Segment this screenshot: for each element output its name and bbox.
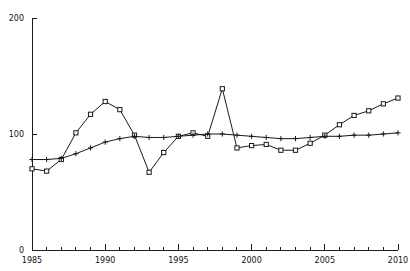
series-line [32, 89, 398, 173]
data-point-marker-square [88, 112, 92, 116]
data-point-marker-square [381, 102, 385, 106]
x-tick-label: 2005 [315, 256, 335, 265]
y-tick-label: 100 [9, 130, 24, 139]
data-point-marker-square [337, 123, 341, 127]
y-tick-label: 0 [19, 246, 24, 255]
x-tick-label: 1990 [95, 256, 115, 265]
data-point-marker-square [352, 113, 356, 117]
data-point-marker-square [103, 99, 107, 103]
data-point-marker-square [367, 109, 371, 113]
data-point-marker-square [30, 167, 34, 171]
x-tick-label: 2000 [241, 256, 261, 265]
data-point-marker-square [74, 131, 78, 135]
data-point-marker-square [235, 146, 239, 150]
chart-container: 0100200 198519901995200020052010 [0, 0, 410, 271]
x-tick-label: 1995 [168, 256, 188, 265]
data-point-marker-square [264, 142, 268, 146]
data-point-marker-square [279, 148, 283, 152]
data-point-marker-square [250, 144, 254, 148]
x-tick-label: 2010 [388, 256, 408, 265]
data-point-marker-square [162, 150, 166, 154]
x-tick-label: 1985 [22, 256, 42, 265]
data-point-marker-square [45, 169, 49, 173]
y-tick-label: 200 [9, 14, 24, 23]
series-plus [29, 130, 400, 162]
series-square [30, 87, 400, 175]
data-point-marker-square [118, 108, 122, 112]
data-point-marker-square [147, 170, 151, 174]
data-series-group [29, 87, 400, 175]
x-axis: 198519901995200020052010 [22, 244, 408, 265]
data-point-marker-square [293, 148, 297, 152]
data-point-marker-square [396, 96, 400, 100]
line-chart-plot: 0100200 198519901995200020052010 [0, 0, 410, 271]
data-point-marker-square [220, 87, 224, 91]
data-point-marker-square [308, 141, 312, 145]
y-axis: 0100200 [9, 14, 37, 255]
series-line [32, 133, 398, 160]
